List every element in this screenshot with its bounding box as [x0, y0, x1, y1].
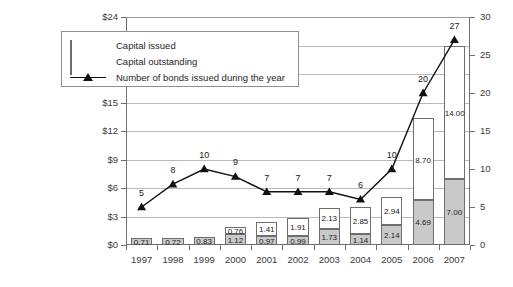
y-axis-left-tick — [121, 131, 126, 132]
bar-group: 1.73 2.13 — [319, 17, 340, 245]
legend-line-triangle-icon — [70, 73, 106, 82]
bar-segment-issued[interactable]: 0.83 — [194, 237, 215, 245]
x-axis-label: 2006 — [408, 254, 439, 266]
y-axis-left-tick-label: $3 — [84, 212, 118, 222]
bar-segment-issued[interactable]: 0.97 — [256, 236, 277, 245]
x-axis-tick — [314, 245, 315, 250]
bar-segment-issued[interactable]: 0.71 — [131, 238, 152, 245]
chart-container: $24 $21 $18 $15 $12 $9 $6 $3 $0 30 25 20… — [0, 0, 513, 287]
bar-value-label: 4.69 — [414, 218, 433, 227]
y-axis-right-tick — [470, 169, 475, 170]
legend-swatch-icon — [70, 57, 106, 66]
x-axis-label: 2003 — [314, 254, 345, 266]
bar-value-label: 0.83 — [195, 237, 214, 246]
bar-segment-issued[interactable]: 2.14 — [381, 225, 402, 245]
y-axis-left-tick-label: $9 — [84, 155, 118, 165]
bar-value-label: 0.72 — [163, 238, 182, 247]
bar-value-label: 1.73 — [320, 233, 339, 242]
bar-value-label: 2.94 — [382, 207, 401, 216]
y-axis-left-tick — [121, 188, 126, 189]
y-axis-right-tick-label: 20 — [480, 88, 513, 98]
y-axis-right-tick — [470, 17, 475, 18]
bar-segment-outstanding[interactable]: 8.70 — [413, 118, 434, 201]
x-axis-tick — [251, 245, 252, 250]
bar-segment-outstanding[interactable]: 0.76 — [225, 227, 246, 234]
x-axis-label: 2004 — [345, 254, 376, 266]
line-point-label: 7 — [254, 173, 280, 183]
bar-group: 4.69 8.70 — [413, 17, 434, 245]
legend-label: Capital issued — [116, 40, 176, 51]
bar-value-label: 2.14 — [382, 231, 401, 240]
bar-value-label: 2.85 — [351, 217, 370, 226]
x-axis-label: 1998 — [157, 254, 188, 266]
x-axis-label: 1999 — [189, 254, 220, 266]
legend-swatch-icon — [70, 41, 106, 50]
x-axis-tick — [376, 245, 377, 250]
x-axis-label: 1997 — [126, 254, 157, 266]
line-point-label: 10 — [191, 150, 217, 160]
line-point-label: 7 — [285, 173, 311, 183]
line-point-label: 9 — [222, 157, 248, 167]
bar-value-label: 1.91 — [288, 223, 307, 232]
bar-group: 2.14 2.94 — [381, 17, 402, 245]
bar-value-label: 0.97 — [257, 237, 276, 246]
y-axis-right-tick — [470, 55, 475, 56]
line-point-label: 27 — [441, 21, 467, 31]
y-axis-right-tick-label: 30 — [480, 12, 513, 22]
x-axis-tick — [220, 245, 221, 250]
y-axis-right-tick-label: 15 — [480, 126, 513, 136]
bar-segment-issued[interactable]: 0.99 — [287, 236, 308, 245]
y-axis-left-tick-label: $15 — [84, 98, 118, 108]
bar-segment-issued[interactable]: 1.73 — [319, 229, 340, 245]
y-axis-left-tick — [121, 160, 126, 161]
x-axis-label: 2002 — [282, 254, 313, 266]
x-axis-tick — [408, 245, 409, 250]
bar-segment-issued[interactable]: 7.00 — [444, 179, 465, 246]
x-axis-tick — [157, 245, 158, 250]
bar-segment-issued[interactable]: 1.14 — [350, 234, 371, 245]
bar-value-label: 2.13 — [320, 214, 339, 223]
bar-value-label: 8.70 — [414, 156, 433, 165]
y-axis-left-tick — [121, 103, 126, 104]
x-axis-label: 2001 — [251, 254, 282, 266]
y-axis-left-tick-label: $0 — [84, 240, 118, 250]
x-axis-label: 2000 — [220, 254, 251, 266]
line-point-label: 8 — [160, 165, 186, 175]
legend-label: Number of bonds issued during the year — [116, 72, 285, 83]
legend-item-bonds-issued[interactable]: Number of bonds issued during the year — [70, 70, 298, 85]
bar-segment-issued[interactable]: 4.69 — [413, 200, 434, 245]
y-axis-left-tick — [121, 217, 126, 218]
y-axis-right-tick-label: 5 — [480, 202, 513, 212]
y-axis-right-tick-label: 0 — [480, 240, 513, 250]
bar-segment-outstanding[interactable]: 2.13 — [319, 208, 340, 228]
y-axis-right-tick-label: 25 — [480, 50, 513, 60]
x-axis-tick — [126, 245, 127, 250]
legend-item-capital-outstanding[interactable]: Capital outstanding — [70, 54, 298, 69]
y-axis-right-tick — [470, 131, 475, 132]
bar-segment-outstanding[interactable]: 2.85 — [350, 207, 371, 234]
bar-segment-outstanding[interactable]: 1.91 — [287, 218, 308, 236]
bar-segment-issued[interactable]: 0.72 — [162, 238, 183, 245]
x-axis-tick — [439, 245, 440, 250]
bar-value-label: 0.76 — [226, 227, 245, 236]
legend-item-capital-issued[interactable]: Capital issued — [70, 38, 298, 53]
x-axis-tick — [345, 245, 346, 250]
y-axis-right-tick — [470, 207, 475, 208]
x-axis-tick — [189, 245, 190, 250]
bar-segment-outstanding[interactable]: 14.00 — [444, 46, 465, 179]
bar-value-label: 1.12 — [226, 236, 245, 245]
y-axis-left-tick — [121, 17, 126, 18]
bar-value-label: 1.14 — [351, 236, 370, 245]
bar-value-label: 7.00 — [445, 208, 464, 217]
bar-segment-outstanding[interactable]: 2.94 — [381, 197, 402, 225]
bar-value-label: 1.41 — [257, 225, 276, 234]
bar-segment-outstanding[interactable]: 1.41 — [256, 222, 277, 235]
y-axis-left-tick-label: $24 — [84, 12, 118, 22]
y-axis-left-tick-label: $6 — [84, 183, 118, 193]
legend-label: Capital outstanding — [116, 56, 197, 67]
x-axis-tick — [282, 245, 283, 250]
x-axis-label: 2007 — [439, 254, 470, 266]
bar-value-label: 0.71 — [132, 238, 151, 247]
x-axis-label: 2005 — [376, 254, 407, 266]
line-point-label: 20 — [410, 74, 436, 84]
